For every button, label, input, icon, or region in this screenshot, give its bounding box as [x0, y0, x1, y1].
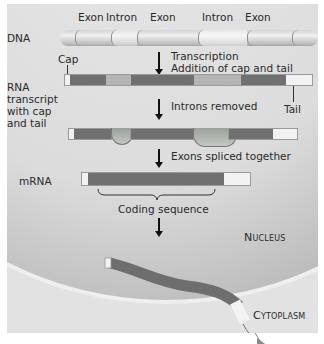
exit-arrow — [0, 0, 324, 344]
